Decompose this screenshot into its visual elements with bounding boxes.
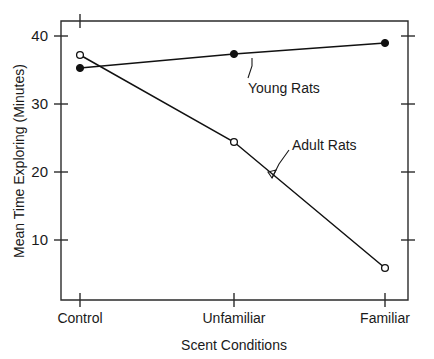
data-point-adult-unfamiliar — [231, 139, 238, 146]
y-tick-label-40: 40 — [31, 27, 48, 44]
data-point-adult-control — [77, 52, 84, 59]
y-tick-label-20: 20 — [31, 163, 48, 180]
y-tick-label-30: 30 — [31, 95, 48, 112]
x-tick-label-unfamiliar: Unfamiliar — [202, 310, 265, 326]
series-line-adult-rats — [80, 55, 385, 268]
data-point-young-unfamiliar — [230, 50, 237, 57]
data-point-young-control — [76, 64, 83, 71]
x-axis-title: Scent Conditions — [181, 337, 287, 353]
young-rats-leader-line — [248, 58, 252, 78]
line-chart: 40 30 20 10 Control Unfamiliar Familiar … — [0, 0, 434, 359]
data-point-adult-familiar — [382, 265, 389, 272]
series-label-adult-rats: Adult Rats — [292, 137, 357, 153]
data-point-young-familiar — [381, 39, 388, 46]
plot-frame — [61, 21, 408, 300]
x-tick-label-familiar: Familiar — [360, 310, 410, 326]
y-axis-title: Mean Time Exploring (Minutes) — [11, 64, 27, 258]
series-label-young-rats: Young Rats — [248, 80, 320, 96]
figure-container: 40 30 20 10 Control Unfamiliar Familiar … — [0, 0, 434, 359]
x-tick-label-control: Control — [57, 310, 102, 326]
y-tick-label-10: 10 — [31, 231, 48, 248]
